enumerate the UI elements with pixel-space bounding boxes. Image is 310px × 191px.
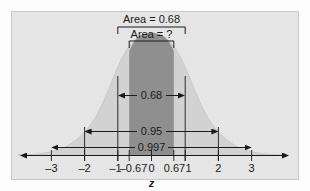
plot-panel bbox=[11, 11, 299, 180]
normal-curve-figure: Area = 0.68 Area = ? 0.68 0.95 0.997 bbox=[0, 0, 310, 191]
paper-grain-texture bbox=[12, 12, 298, 179]
